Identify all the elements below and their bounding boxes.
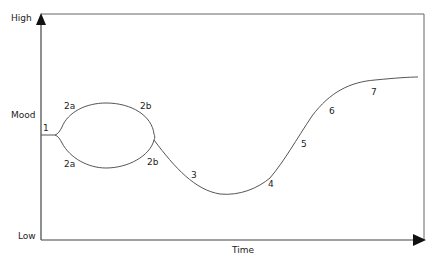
stage-3-label: 3: [191, 171, 197, 180]
y-axis-arrow-icon: [36, 13, 46, 25]
x-title-label: Time: [232, 246, 254, 255]
stage-5-label: 5: [301, 140, 307, 149]
stage-2b-bottom-label: 2b: [147, 158, 158, 167]
y-low-label: Low: [18, 232, 36, 241]
mood-time-diagram: High Mood Low Time 1 2a 2b 2a 2b 3 4 5 6…: [0, 0, 438, 265]
y-title-label: Mood: [11, 111, 36, 120]
stage-2a-bottom-label: 2a: [64, 160, 75, 169]
stage-1-label: 1: [43, 124, 49, 133]
stage-6-label: 6: [329, 107, 335, 116]
stage-2b-top-label: 2b: [140, 102, 151, 111]
stage-7-label: 7: [371, 88, 377, 97]
stage-2a-top-label: 2a: [64, 102, 75, 111]
y-high-label: High: [11, 14, 32, 23]
diagram-canvas: [0, 0, 438, 265]
loop-join: [154, 134, 155, 140]
stage-4-label: 4: [268, 180, 274, 189]
